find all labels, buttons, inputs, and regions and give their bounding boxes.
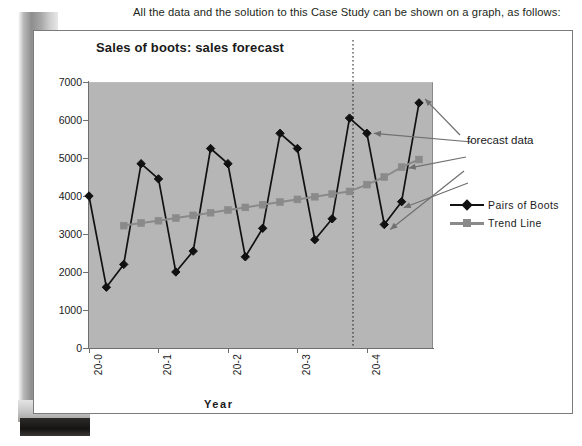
page-gutter-dark-band: [20, 418, 90, 436]
x-axis-tick-label: 20-1: [162, 354, 173, 375]
y-axis-tick-label: 7000: [36, 76, 82, 88]
y-axis-tick-mark: [83, 82, 88, 83]
y-axis-tick-mark: [83, 310, 88, 311]
x-axis-tick-mark: [158, 348, 159, 353]
y-axis-tick-mark: [83, 348, 88, 349]
x-axis-tick-label: 20-0: [93, 354, 104, 375]
legend-label-pairs-of-boots: Pairs of Boots: [488, 199, 559, 211]
legend-item-trend-line: Trend Line: [450, 215, 542, 231]
y-axis-tick-mark: [83, 272, 88, 273]
y-axis-tick-label: 2000: [36, 266, 82, 278]
x-axis-tick-label: 20-3: [301, 354, 312, 375]
legend-swatch-square-icon: [450, 217, 484, 229]
x-axis-tick-mark: [89, 348, 90, 353]
x-axis-tick-mark: [297, 348, 298, 353]
figure-page: All the data and the solution to this Ca…: [0, 0, 582, 446]
y-axis-tick-mark: [83, 158, 88, 159]
forecast-annotation-label: forecast data: [467, 134, 533, 146]
chart-legend: Pairs of Boots Trend Line: [448, 196, 560, 236]
y-axis-tick-label: 5000: [36, 152, 82, 164]
y-axis-line: [88, 81, 89, 349]
x-axis-line: [88, 348, 434, 349]
y-axis-tick-label: 0: [36, 342, 82, 354]
y-axis-tick-label: 3000: [36, 228, 82, 240]
figure-caption: All the data and the solution to this Ca…: [133, 6, 573, 18]
x-axis-tick-mark: [228, 348, 229, 353]
y-axis-tick-mark: [83, 234, 88, 235]
plot-area: [89, 82, 433, 348]
legend-label-trend-line: Trend Line: [488, 217, 542, 229]
y-axis-tick-mark: [83, 196, 88, 197]
legend-swatch-diamond-icon: [450, 199, 484, 211]
y-axis-tick-label: 1000: [36, 304, 82, 316]
y-axis-tick-label: 6000: [36, 114, 82, 126]
x-axis-tick-mark: [367, 348, 368, 353]
chart-title: Sales of boots: sales forecast: [96, 40, 284, 55]
x-axis-tick-label: 20-2: [232, 354, 243, 375]
x-axis-title: Year: [204, 398, 234, 410]
legend-item-pairs-of-boots: Pairs of Boots: [450, 197, 559, 213]
y-axis-tick-mark: [83, 120, 88, 121]
x-axis-tick-label: 20-4: [371, 354, 382, 375]
y-axis-tick-label: 4000: [36, 190, 82, 202]
